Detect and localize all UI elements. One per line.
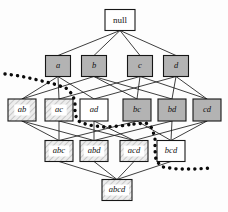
lattice-node-ad[interactable]: ad	[80, 99, 108, 121]
lattice-edge-d-cd	[176, 77, 207, 100]
node-label-ab: ab	[18, 104, 27, 114]
lattice-node-ab[interactable]: ab	[8, 99, 36, 121]
lattice-canvas: nullabcdabacadbcbdcdabcabdacdbcdabcd	[0, 0, 228, 212]
node-label-cd: cd	[203, 104, 212, 114]
lattice-node-bc[interactable]: bc	[123, 99, 151, 121]
lattice-edge-null-b	[94, 31, 120, 56]
lattice-edge-abc-abcd	[59, 162, 117, 180]
lattice-edge-c-bc	[137, 77, 140, 100]
subset-lattice-diagram: nullabcdabacadbcbdcdabcabdacdbcdabcd	[0, 0, 228, 212]
lattice-node-d[interactable]: d	[164, 56, 189, 77]
node-label-c: c	[138, 60, 142, 70]
lattice-node-abc[interactable]: abc	[45, 141, 73, 162]
lattice-edge-null-c	[120, 31, 140, 56]
lattice-node-acd[interactable]: acd	[120, 141, 148, 162]
lattice-edge-ab-abc	[22, 121, 59, 141]
lattice-node-null[interactable]: null	[105, 10, 135, 31]
lattice-node-abd[interactable]: abd	[80, 141, 108, 162]
lattice-node-ac[interactable]: ac	[45, 99, 73, 121]
lattice-edge-bc-bcd	[137, 121, 171, 141]
lattice-node-a[interactable]: a	[46, 56, 71, 77]
lattice-node-bd[interactable]: bd	[158, 99, 186, 121]
lattice-node-abcd[interactable]: abcd	[102, 180, 132, 201]
lattice-edge-cd-bcd	[171, 121, 207, 141]
node-label-b: b	[92, 60, 96, 70]
lattice-edge-c-ac	[59, 77, 140, 100]
node-label-ac: ac	[55, 104, 63, 114]
lattice-edge-c-cd	[140, 77, 207, 100]
lattice-node-cd[interactable]: cd	[193, 99, 221, 121]
lattice-node-c[interactable]: c	[128, 56, 153, 77]
lattice-node-bcd[interactable]: bcd	[157, 141, 185, 162]
lattice-nodes: nullabcdabacadbcbdcdabcabdacdbcdabcd	[8, 10, 221, 201]
lattice-edge-abd-abcd	[94, 162, 117, 180]
lattice-edge-ab-abd	[22, 121, 94, 141]
node-label-bc: bc	[133, 104, 141, 114]
node-label-abcd: abcd	[109, 184, 126, 194]
lattice-edge-null-a	[58, 31, 120, 56]
node-label-a: a	[56, 60, 60, 70]
node-label-abd: abd	[88, 145, 102, 155]
lattice-edge-a-ad	[58, 77, 94, 100]
node-label-acd: acd	[128, 145, 141, 155]
lattice-edge-null-d	[120, 31, 176, 56]
lattice-node-b[interactable]: b	[82, 56, 107, 77]
node-label-bd: bd	[168, 104, 177, 114]
node-label-null: null	[113, 15, 128, 25]
node-label-abc: abc	[53, 145, 66, 155]
lattice-edge-a-ab	[22, 77, 58, 100]
node-label-ad: ad	[90, 104, 99, 114]
node-label-bcd: bcd	[165, 145, 178, 155]
